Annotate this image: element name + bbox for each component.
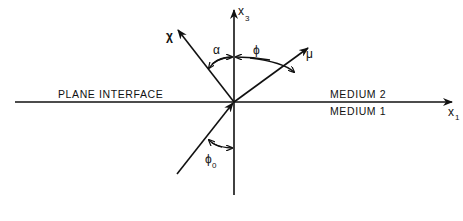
- alpha-angle-label: α: [213, 43, 220, 57]
- mu-vector-label: μ: [306, 47, 313, 61]
- phi0-angle-subscript: 0: [212, 161, 217, 170]
- medium-2-label: MEDIUM 2: [330, 88, 386, 100]
- phi0-angle-arc-right: [212, 143, 232, 148]
- x1-axis-label: x: [448, 105, 454, 119]
- chi-vector-arrow: [178, 30, 234, 102]
- phi0-angle-arc-left: [209, 140, 222, 147]
- alpha-angle-arc-right: [212, 57, 232, 64]
- x3-axis-label: x: [238, 4, 244, 18]
- phi-angle-arc-right: [250, 58, 294, 72]
- medium-1-label: MEDIUM 1: [330, 105, 386, 117]
- mu-vector-arrow: [234, 48, 308, 102]
- x3-axis-subscript: 3: [245, 14, 250, 23]
- x1-axis-subscript: 1: [455, 113, 460, 122]
- plane-interface-label: PLANE INTERFACE: [58, 88, 163, 100]
- phi0-angle-label: ϕ: [205, 152, 212, 166]
- chi-vector-label: χ: [166, 29, 173, 43]
- refraction-diagram: PLANE INTERFACE MEDIUM 2 MEDIUM 1 x 1 x …: [0, 0, 463, 221]
- phi-angle-label: ϕ: [253, 43, 260, 57]
